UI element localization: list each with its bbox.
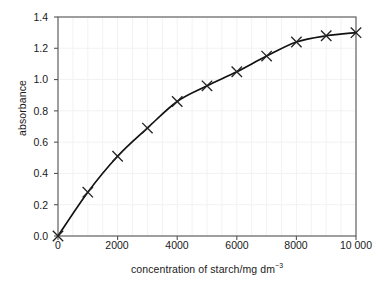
plot-area — [0, 0, 388, 290]
gridlines — [58, 17, 356, 236]
tick-marks — [54, 17, 356, 240]
chart-figure: absorbance 1.4 1.2 1.0 0.8 0.6 0.4 0.2 0… — [0, 0, 388, 290]
